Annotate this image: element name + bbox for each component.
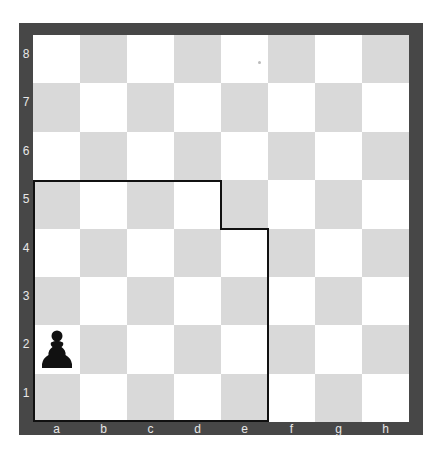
square-d5[interactable] [174, 180, 221, 228]
square-a7[interactable] [33, 83, 80, 131]
square-a2[interactable] [33, 325, 80, 373]
square-e2[interactable] [221, 325, 268, 373]
square-d7[interactable] [174, 83, 221, 131]
square-h6[interactable] [362, 132, 409, 180]
square-b5[interactable] [80, 180, 127, 228]
square-h1[interactable] [362, 374, 409, 422]
square-a3[interactable] [33, 277, 80, 325]
square-h5[interactable] [362, 180, 409, 228]
rank-label-2: 2 [19, 337, 33, 351]
black-pawn[interactable] [33, 325, 80, 373]
square-d2[interactable] [174, 325, 221, 373]
file-label-d: d [174, 423, 221, 435]
square-g5[interactable] [315, 180, 362, 228]
file-label-b: b [80, 423, 127, 435]
rank-label-4: 4 [19, 241, 33, 255]
square-f7[interactable] [268, 83, 315, 131]
square-b4[interactable] [80, 229, 127, 277]
file-label-a: a [33, 423, 80, 435]
square-b3[interactable] [80, 277, 127, 325]
file-label-h: h [362, 423, 409, 435]
square-f3[interactable] [268, 277, 315, 325]
square-b2[interactable] [80, 325, 127, 373]
square-d3[interactable] [174, 277, 221, 325]
rank-label-7: 7 [19, 95, 33, 109]
square-e3[interactable] [221, 277, 268, 325]
square-b7[interactable] [80, 83, 127, 131]
square-e6[interactable] [221, 132, 268, 180]
rank-label-3: 3 [19, 289, 33, 303]
square-f1[interactable] [268, 374, 315, 422]
square-e5[interactable] [221, 180, 268, 228]
square-e7[interactable] [221, 83, 268, 131]
square-c6[interactable] [127, 132, 174, 180]
square-h2[interactable] [362, 325, 409, 373]
square-a5[interactable] [33, 180, 80, 228]
square-d8[interactable] [174, 35, 221, 83]
square-g6[interactable] [315, 132, 362, 180]
square-g3[interactable] [315, 277, 362, 325]
square-d6[interactable] [174, 132, 221, 180]
square-h3[interactable] [362, 277, 409, 325]
square-c3[interactable] [127, 277, 174, 325]
square-f5[interactable] [268, 180, 315, 228]
rank-label-5: 5 [19, 192, 33, 206]
square-a8[interactable] [33, 35, 80, 83]
file-label-e: e [221, 423, 268, 435]
pawn-icon [40, 329, 74, 369]
square-c2[interactable] [127, 325, 174, 373]
square-g7[interactable] [315, 83, 362, 131]
square-c4[interactable] [127, 229, 174, 277]
file-label-c: c [127, 423, 174, 435]
square-c5[interactable] [127, 180, 174, 228]
square-b1[interactable] [80, 374, 127, 422]
rank-label-6: 6 [19, 144, 33, 158]
rank-label-8: 8 [19, 47, 33, 61]
rank-label-1: 1 [19, 386, 33, 400]
square-g1[interactable] [315, 374, 362, 422]
square-e8[interactable] [221, 35, 268, 83]
square-g4[interactable] [315, 229, 362, 277]
square-d1[interactable] [174, 374, 221, 422]
square-f2[interactable] [268, 325, 315, 373]
square-h4[interactable] [362, 229, 409, 277]
square-a1[interactable] [33, 374, 80, 422]
square-b6[interactable] [80, 132, 127, 180]
square-e4[interactable] [221, 229, 268, 277]
square-e1[interactable] [221, 374, 268, 422]
chess-board-frame: 8 7 6 5 4 3 2 1 a b c d e f g h [19, 23, 423, 435]
square-c8[interactable] [127, 35, 174, 83]
square-a6[interactable] [33, 132, 80, 180]
square-f8[interactable] [268, 35, 315, 83]
file-label-g: g [315, 423, 362, 435]
square-c7[interactable] [127, 83, 174, 131]
chess-board [33, 35, 409, 422]
square-a4[interactable] [33, 229, 80, 277]
square-f4[interactable] [268, 229, 315, 277]
square-g8[interactable] [315, 35, 362, 83]
speck [258, 61, 261, 64]
square-g2[interactable] [315, 325, 362, 373]
file-label-f: f [268, 423, 315, 435]
square-f6[interactable] [268, 132, 315, 180]
square-b8[interactable] [80, 35, 127, 83]
square-h7[interactable] [362, 83, 409, 131]
square-d4[interactable] [174, 229, 221, 277]
square-c1[interactable] [127, 374, 174, 422]
square-h8[interactable] [362, 35, 409, 83]
